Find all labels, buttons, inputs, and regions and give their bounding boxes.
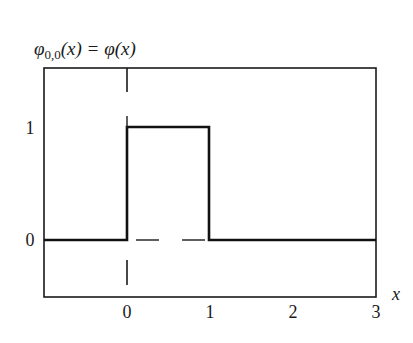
title-phi: φ (34, 38, 45, 59)
y-tick-label-1: 1 (26, 118, 35, 138)
haar-scaling-function-chart: φ0,0(x) = φ(x) 1 0 0 1 2 3 x (0, 0, 413, 343)
y-tick-label-0: 0 (26, 230, 35, 250)
title-rest: (x) = φ(x) (61, 38, 136, 60)
step-function-line (44, 127, 376, 240)
title-subscript: 0,0 (45, 47, 61, 62)
x-tick-label-2: 2 (289, 302, 298, 322)
chart-title: φ0,0(x) = φ(x) (34, 38, 136, 62)
x-tick-label-3: 3 (372, 302, 381, 322)
x-tick-label-1: 1 (206, 302, 215, 322)
x-axis-label: x (391, 284, 400, 304)
x-tick-label-0: 0 (123, 302, 132, 322)
